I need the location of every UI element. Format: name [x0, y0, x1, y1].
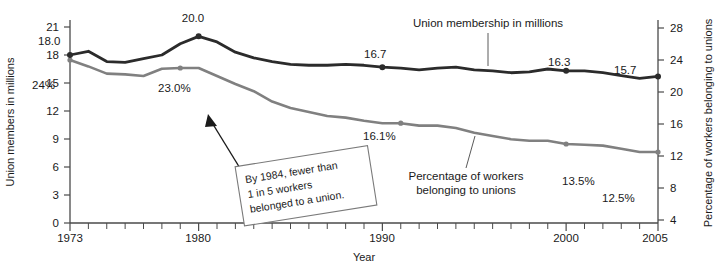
label-percentage-1979: 23.0% — [158, 82, 191, 94]
data-point-marker — [655, 73, 661, 79]
x-tick-label-1980: 1980 — [185, 232, 211, 244]
left-axis-ticks: 21 18 15 12 9 6 3 0 — [46, 21, 70, 229]
x-tick-label-2005: 2005 — [642, 232, 668, 244]
y2-axis-title: Percentage of workers belonging to union… — [702, 18, 714, 227]
label-membership-1990: 16.7 — [364, 48, 386, 60]
right-tick-label-8: 8 — [670, 182, 676, 194]
left-tick-label-0: 0 — [53, 217, 59, 229]
dual-axis-line-chart: 21 18 15 12 9 6 3 0 28 24 20 16 12 8 4 — [0, 0, 724, 266]
x-tick-label-1973: 1973 — [57, 232, 83, 244]
right-axis-ticks: 28 24 20 16 12 8 4 — [658, 22, 683, 226]
y-axis-title: Union members in millions — [4, 57, 16, 186]
right-tick-label-12: 12 — [670, 150, 683, 162]
data-point-marker — [67, 52, 73, 58]
left-tick-label-18: 18 — [46, 49, 59, 61]
series-callout-percentage-leader — [466, 136, 475, 168]
label-membership-1973: 18.0 — [38, 35, 60, 47]
left-tick-label-3: 3 — [53, 189, 59, 201]
left-tick-label-21: 21 — [46, 21, 59, 33]
series-callout-membership-text: Union membership in millions — [413, 17, 563, 29]
label-percentage-1991: 16.1% — [363, 130, 396, 142]
chart-container: 21 18 15 12 9 6 3 0 28 24 20 16 12 8 4 — [0, 0, 724, 266]
x-axis-title: Year — [353, 251, 376, 263]
data-point-marker — [564, 141, 569, 146]
left-tick-label-12: 12 — [46, 105, 59, 117]
x-tick-label-1990: 1990 — [369, 232, 395, 244]
data-point-marker — [379, 64, 385, 70]
right-tick-label-20: 20 — [670, 86, 683, 98]
data-point-marker — [196, 33, 202, 39]
series-callout-membership: Union membership in millions — [413, 17, 563, 66]
right-tick-label-28: 28 — [670, 22, 683, 34]
callout-arrow-head — [205, 114, 217, 127]
series-callout-percentage: Percentage of workers belonging to union… — [408, 136, 523, 196]
label-percentage-2000: 13.5% — [562, 175, 595, 187]
series-callout-percentage-text-line1: Percentage of workers — [408, 170, 523, 182]
label-membership-1980: 20.0 — [182, 12, 204, 24]
data-point-marker — [67, 57, 72, 62]
label-percentage-2005: 12.5% — [602, 192, 635, 204]
x-tick-label-2000: 2000 — [553, 232, 579, 244]
right-tick-label-24: 24 — [670, 54, 683, 66]
left-tick-label-6: 6 — [53, 161, 59, 173]
data-point-marker — [563, 68, 569, 74]
label-percentage-1973: 24% — [32, 79, 55, 91]
label-membership-2005: 15.7 — [614, 64, 636, 76]
left-tick-label-9: 9 — [53, 133, 59, 145]
series-callout-percentage-text-line2: belonging to unions — [416, 184, 516, 196]
data-point-marker — [655, 149, 660, 154]
callout-box: By 1984, fewer than 1 in 5 workers belon… — [235, 146, 377, 226]
label-membership-2000: 16.3 — [548, 56, 570, 68]
right-tick-label-16: 16 — [670, 118, 683, 130]
data-point-marker — [178, 65, 183, 70]
x-axis-ticks — [70, 223, 658, 231]
data-point-marker — [398, 121, 403, 126]
x-axis-tick-labels: 1973 1980 1990 2000 2005 — [57, 232, 668, 244]
right-tick-label-4: 4 — [670, 214, 677, 226]
